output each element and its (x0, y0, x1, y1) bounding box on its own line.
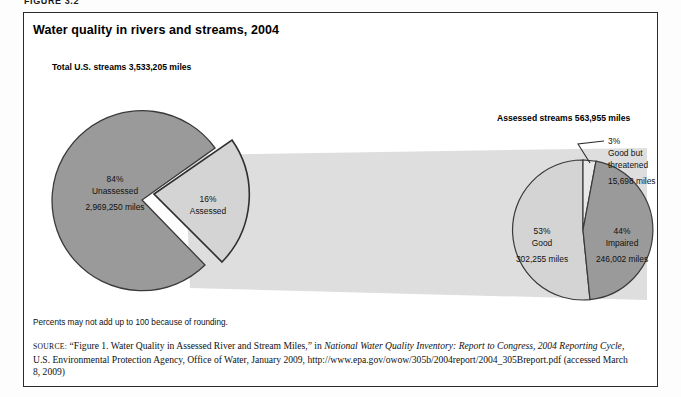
good-name-label: Good (532, 238, 553, 248)
source-publication-title: National Water Quality Inventory: Report… (324, 340, 624, 351)
left-pie-value-label: 2,969,250 miles (85, 202, 144, 212)
good-pct-label: 53% (534, 226, 551, 236)
assessed-slice-pct-label: 16% (200, 194, 217, 204)
threat-name-line2: threatened (608, 160, 648, 170)
source-text-part2: U.S. Environmental Protection Agency, Of… (33, 354, 628, 378)
threat-value-label: 15,698 miles (608, 176, 656, 186)
rounding-note: Percents may not add up to 100 because o… (33, 318, 228, 327)
left-pie-name-label: Unassessed (92, 186, 138, 196)
impaired-pct-label: 44% (614, 226, 631, 236)
threat-pct-label: 3% (608, 136, 621, 146)
threat-name-line1: Good but (608, 148, 643, 158)
source-text-part1: “Figure 1. Water Quality in Assessed Riv… (70, 340, 325, 351)
assessed-slice-name-label: Assessed (190, 206, 227, 216)
left-pie-pct-label: 84% (107, 174, 124, 184)
source-keyword: SOURCE: (33, 342, 67, 351)
pie-chart-artwork: 84% Unassessed 2,969,250 miles 16% Asses… (0, 0, 681, 397)
impaired-value-label: 246,002 miles (596, 254, 648, 264)
figure-container: FIGURE 3.2 Water quality in rivers and s… (0, 0, 681, 397)
good-value-label: 302,255 miles (516, 254, 568, 264)
source-citation: SOURCE: “Figure 1. Water Quality in Asse… (33, 340, 633, 379)
impaired-name-label: Impaired (606, 238, 639, 248)
